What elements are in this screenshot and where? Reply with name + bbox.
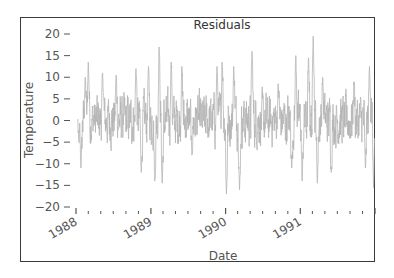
y-tick-label: 15 (45, 49, 60, 63)
y-tick-label: 5 (52, 92, 60, 106)
y-tick-label: −5 (42, 135, 60, 149)
residuals-series-line (78, 36, 375, 194)
x-tick-label: 1991 (270, 214, 303, 241)
y-tick-label: −15 (35, 178, 60, 192)
x-tick-label: 1989 (121, 214, 154, 241)
y-axis: 20151050−5−10−15−20 (35, 27, 70, 214)
x-tick-label: 1988 (46, 214, 79, 241)
y-tick-label: −10 (35, 157, 60, 171)
chart-title: Residuals (194, 18, 251, 32)
y-tick-label: 20 (45, 27, 60, 41)
y-tick-label: 10 (45, 70, 60, 84)
x-tick-label: 1990 (196, 214, 229, 241)
x-axis: 1988198919901991 (46, 208, 375, 242)
plot-area (78, 36, 375, 194)
x-axis-label: Date (209, 249, 238, 263)
residuals-line-chart: Residuals 20151050−5−10−15−20 1988198919… (0, 0, 394, 278)
y-tick-label: −20 (35, 200, 60, 214)
y-tick-label: 0 (52, 114, 60, 128)
y-axis-label: Temperature (22, 82, 36, 159)
